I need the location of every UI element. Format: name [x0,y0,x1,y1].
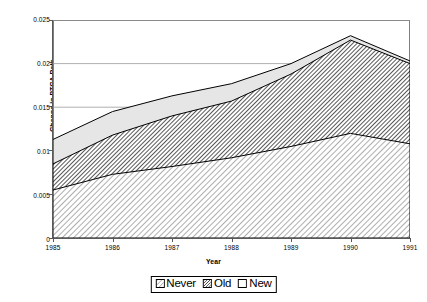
x-tick-label: 1986 [93,245,133,252]
chart-svg [53,20,410,238]
x-tick-label: 1991 [390,245,427,252]
x-tick-mark [410,238,411,242]
x-tick-label: 1987 [152,245,192,252]
x-tick-mark [291,238,292,242]
legend-swatch-never-icon [155,279,164,288]
y-axis-tick-labels: 0 0.005 0.01 0.015 0.02 0.025 [0,0,50,302]
legend-label-new: New [249,278,271,290]
legend-item-old[interactable]: Old [203,278,231,290]
x-tick-mark [232,238,233,242]
chart-legend: Never Old New [150,276,276,293]
x-tick-label: 1989 [271,245,311,252]
y-axis-line [52,20,53,239]
x-tick-mark [351,238,352,242]
legend-label-old: Old [214,278,231,290]
legend-label-never: Never [166,278,196,290]
x-tick-mark [172,238,173,242]
y-tick-label: 0.015 [33,105,50,112]
x-tick-label: 1985 [33,245,73,252]
plot-area [53,20,410,238]
x-tick-label: 1988 [212,245,252,252]
x-axis-title: Year [0,258,427,265]
chart-figure: 0 0.005 0.01 0.015 0.02 0.025 Change in … [0,0,427,302]
y-tick-label: 0.025 [33,17,50,24]
legend-swatch-old-icon [203,279,212,288]
x-tick-mark [113,238,114,242]
x-tick-mark [53,238,54,242]
y-tick-label: 0.005 [33,193,50,200]
legend-item-new[interactable]: New [238,278,271,290]
x-tick-label: 1990 [331,245,371,252]
legend-item-never[interactable]: Never [155,278,196,290]
legend-swatch-new-icon [238,279,247,288]
